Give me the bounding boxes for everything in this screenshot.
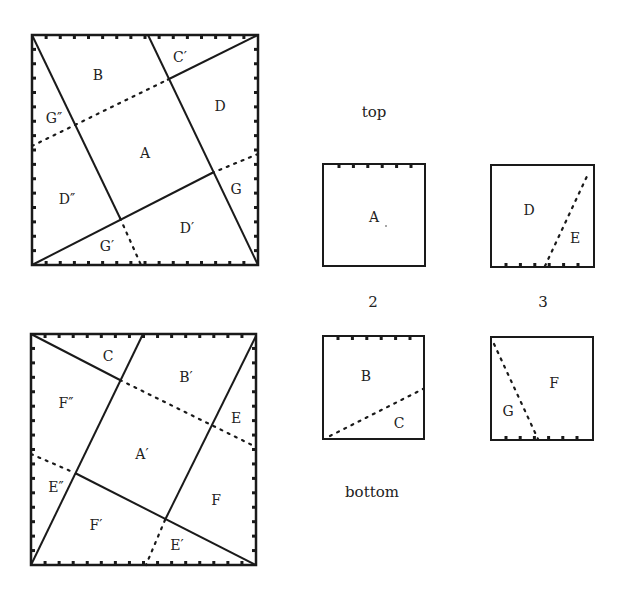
big-bottom-labels: C B′ F″ E A′ E″ F F′ E′ xyxy=(48,348,241,553)
label-A-prime: A′ xyxy=(134,446,148,462)
label-B: B xyxy=(93,67,103,83)
cut-line xyxy=(32,35,120,218)
dissection-diagram: B C′ G″ D A G D″ D′ G′ C B′ F″ E A′ E″ F… xyxy=(0,0,620,595)
fold-line xyxy=(120,218,141,265)
label-B-prime: B′ xyxy=(179,369,192,385)
small-square-bottom-2 xyxy=(323,336,424,439)
label-C: C xyxy=(103,348,114,364)
label-C-small: C xyxy=(394,415,405,431)
label-F: F xyxy=(211,492,221,508)
label-G-prime: G′ xyxy=(100,238,114,254)
fold-line xyxy=(146,520,165,565)
label-F-dprime: F″ xyxy=(59,395,74,411)
label-E-prime: E′ xyxy=(170,537,183,553)
caption-bottom: bottom xyxy=(345,483,399,501)
caption-top: top xyxy=(362,103,387,121)
label-F-small: F xyxy=(549,375,559,391)
stray-dot xyxy=(385,225,387,227)
label-D: D xyxy=(214,98,225,114)
caption-col-2: 2 xyxy=(368,293,378,311)
label-G: G xyxy=(230,181,241,197)
label-D-prime: D′ xyxy=(180,220,194,236)
label-A: A xyxy=(139,145,151,161)
label-E-small: E xyxy=(570,230,580,246)
label-G-dprime: G″ xyxy=(46,110,62,126)
fold-line xyxy=(330,389,423,436)
fold-line xyxy=(494,344,538,439)
label-D-small: D xyxy=(523,202,534,218)
label-A-small: A xyxy=(368,209,380,225)
cut-line xyxy=(148,35,258,265)
label-D-dprime: D″ xyxy=(59,191,75,207)
label-G-small: G xyxy=(502,403,513,419)
label-E-dprime: E″ xyxy=(48,479,63,495)
fold-line xyxy=(31,454,75,473)
fold-line xyxy=(545,172,589,266)
cut-line xyxy=(32,173,212,265)
small-square-top-3 xyxy=(491,165,594,267)
fold-line xyxy=(212,154,258,173)
label-C-prime: C′ xyxy=(173,49,187,65)
big-top-labels: B C′ G″ D A G D″ D′ G′ xyxy=(46,49,242,254)
small-square-bottom-3 xyxy=(491,337,593,440)
label-E: E xyxy=(231,410,241,426)
label-B-small: B xyxy=(361,368,371,384)
cut-line xyxy=(31,334,143,565)
label-F-prime: F′ xyxy=(90,517,103,533)
caption-col-3: 3 xyxy=(538,293,548,311)
